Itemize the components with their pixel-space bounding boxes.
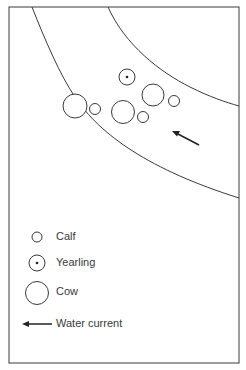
legend-arrow-icon [22,321,52,327]
legend-yearling-dot [36,262,39,265]
cow-circle [142,84,164,106]
legend-label-calf: Calf [56,230,76,243]
legend-symbols [26,232,49,305]
legend-calf-icon [32,232,42,242]
calf-circle [90,104,101,115]
water-current-arrow [172,131,199,145]
animal-group [63,69,180,124]
calf-circle [138,112,149,123]
legend-label-cow: Cow [56,285,78,298]
legend-cow-icon [26,282,49,305]
calf-circle [169,96,180,107]
diagram-canvas [0,0,246,370]
cow-circle [112,101,135,124]
frame-border [9,7,239,363]
legend-label-yearling: Yearling [56,256,95,269]
legend-label-water-current: Water current [56,317,122,330]
cow-circle [63,94,87,118]
right-riverbank-line [108,7,239,106]
yearling-dot [126,76,129,79]
